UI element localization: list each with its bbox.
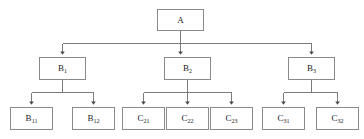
hierarchy-tree-diagram: A B1 B2 B3 B11 B12 C21 C22 bbox=[0, 0, 364, 139]
node-c21: C21 bbox=[122, 107, 165, 130]
node-a-label: A bbox=[177, 16, 184, 25]
node-b3: B3 bbox=[288, 57, 335, 80]
node-a: A bbox=[157, 9, 204, 31]
node-c22: C22 bbox=[166, 107, 209, 130]
node-c31: C31 bbox=[262, 107, 305, 130]
node-b11-label: B11 bbox=[26, 114, 38, 123]
node-b3-label: B3 bbox=[307, 64, 316, 73]
node-b1: B1 bbox=[39, 57, 86, 80]
node-c23-label: C23 bbox=[225, 114, 237, 123]
node-b2: B2 bbox=[164, 57, 211, 80]
node-c21-label: C21 bbox=[137, 114, 149, 123]
node-b11: B11 bbox=[10, 107, 53, 130]
node-c32-label: C32 bbox=[331, 114, 343, 123]
node-c23: C23 bbox=[210, 107, 253, 130]
node-c22-label: C22 bbox=[181, 114, 193, 123]
node-b1-label: B1 bbox=[58, 64, 67, 73]
node-b2-label: B2 bbox=[183, 64, 192, 73]
node-c31-label: C31 bbox=[277, 114, 289, 123]
node-c32: C32 bbox=[316, 107, 359, 130]
node-b12-label: B12 bbox=[87, 114, 99, 123]
node-b12: B12 bbox=[72, 107, 115, 130]
